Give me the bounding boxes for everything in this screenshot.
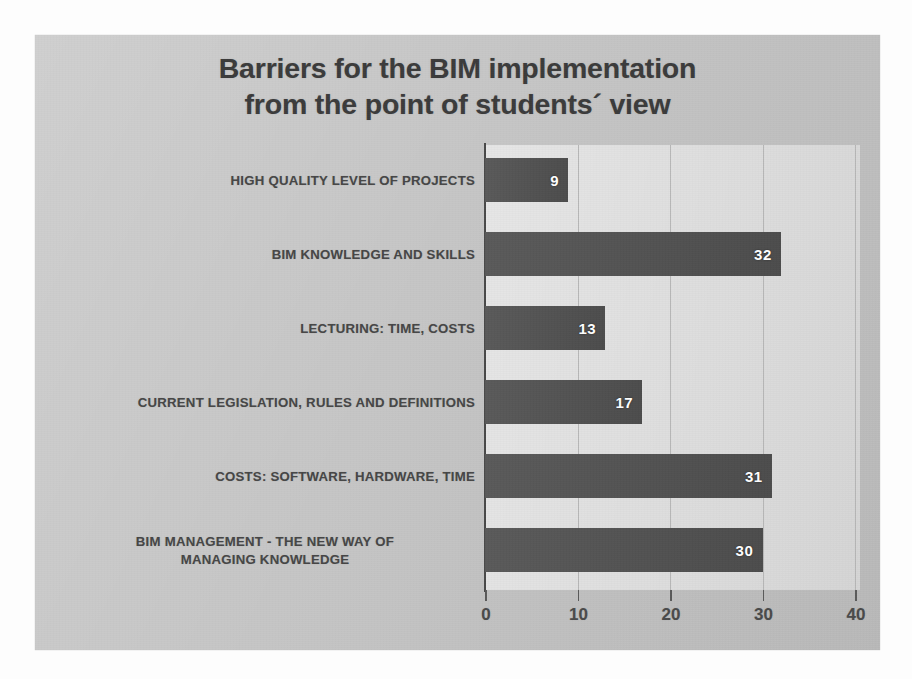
bar-value-label: 13	[578, 320, 596, 337]
gridline-30	[763, 145, 764, 590]
gridline-40	[855, 145, 856, 590]
bar-row[interactable]: 30	[485, 528, 763, 572]
category-label-bim-knowledge-and-skills: BIM KNOWLEDGE AND SKILLS	[55, 246, 475, 264]
bar-row[interactable]: 31	[485, 454, 772, 498]
tick-mark-30	[763, 590, 765, 601]
bar-bim-knowledge-and-skills[interactable]: 32	[485, 232, 781, 276]
bar-value-label: 32	[754, 246, 772, 263]
category-label-high-quality-level-of-projects: HIGH QUALITY LEVEL OF PROJECTS	[55, 172, 475, 190]
category-label-line: LECTURING: TIME, COSTS	[300, 321, 475, 336]
bar-value-label: 30	[736, 542, 754, 559]
tick-mark-10	[578, 590, 580, 601]
bar-row[interactable]: 13	[485, 306, 605, 350]
bar-lecturing-time-costs[interactable]: 13	[485, 306, 605, 350]
bar-value-label: 31	[745, 468, 763, 485]
category-label-line: MANAGING KNOWLEDGE	[181, 552, 350, 567]
bar-current-legislation-rules-and-definitions[interactable]: 17	[485, 380, 642, 424]
x-tick-label-40: 40	[826, 605, 886, 625]
tick-mark-20	[670, 590, 672, 601]
y-axis-line	[484, 143, 486, 592]
bar-costs-software-hardware-time[interactable]: 31	[485, 454, 772, 498]
category-label-line: COSTS: SOFTWARE, HARDWARE, TIME	[215, 469, 475, 484]
chart-title-line-2: from the point of students´ view	[35, 86, 880, 122]
plot-area	[485, 145, 860, 590]
gridline-10	[578, 145, 579, 590]
tick-mark-0	[485, 590, 487, 601]
bar-high-quality-level-of-projects[interactable]: 9	[485, 158, 568, 202]
bar-row[interactable]: 17	[485, 380, 642, 424]
x-tick-label-20: 20	[641, 605, 701, 625]
slide-panel: Barriers for the BIM implementation from…	[35, 35, 880, 650]
category-label-line: CURRENT LEGISLATION, RULES AND DEFINITIO…	[138, 395, 475, 410]
gridline-20	[670, 145, 671, 590]
bar-row[interactable]: 9	[485, 158, 568, 202]
bar-bim-management-new-way-of-managing-knowledge[interactable]: 30	[485, 528, 763, 572]
category-label-costs-software-hardware-time: COSTS: SOFTWARE, HARDWARE, TIME	[55, 468, 475, 486]
category-label-current-legislation-rules-and-definitions: CURRENT LEGISLATION, RULES AND DEFINITIO…	[35, 394, 475, 412]
x-tick-label-0: 0	[456, 605, 516, 625]
category-label-lecturing-time-costs: LECTURING: TIME, COSTS	[55, 320, 475, 338]
bar-value-label: 17	[615, 394, 633, 411]
bar-value-label: 9	[550, 172, 559, 189]
chart-title-line-1: Barriers for the BIM implementation	[35, 50, 880, 86]
x-tick-label-30: 30	[734, 605, 794, 625]
category-label-line: BIM MANAGEMENT - THE NEW WAY OF	[136, 534, 394, 549]
chart-title: Barriers for the BIM implementation from…	[35, 50, 880, 123]
category-label-line: HIGH QUALITY LEVEL OF PROJECTS	[231, 173, 475, 188]
bar-row[interactable]: 32	[485, 232, 781, 276]
category-label-line: BIM KNOWLEDGE AND SKILLS	[272, 247, 475, 262]
category-label-bim-management-new-way-of-managing-knowledge: BIM MANAGEMENT - THE NEW WAY OF MANAGING…	[55, 533, 475, 568]
x-tick-label-10: 10	[549, 605, 609, 625]
tick-mark-40	[855, 590, 857, 601]
